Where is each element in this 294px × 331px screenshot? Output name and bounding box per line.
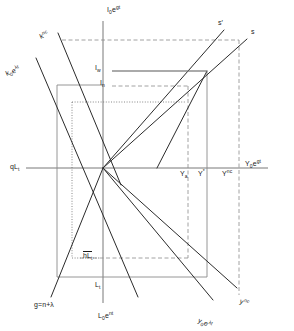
axis-label-vertical-bottom-text: L0ent (98, 312, 113, 319)
marker-label-Y-nc-text: Ync (222, 170, 232, 177)
curve-s-prime (103, 30, 224, 168)
marker-label-Y-star-text: Y* (198, 170, 205, 177)
curve-label-s-text: s (251, 28, 255, 35)
marker-label-Ya: Ya (180, 170, 188, 177)
axis-group (26, 21, 268, 303)
marker-label-hLt: hLt (83, 252, 93, 259)
marker-label-Ya-text: Ya (180, 170, 188, 177)
marker-label-Iw: Iw (95, 64, 101, 71)
axis-label-horizontal-left-text: qLt (10, 163, 20, 170)
axis-label-horizontal-left: qLt (10, 163, 20, 170)
curve-label-g-line: g=n+λ (34, 301, 54, 308)
curve-label-g-line-text: g=n+λ (34, 301, 54, 308)
dotted-guides (72, 102, 185, 258)
marker-label-Y-star: Y* (198, 170, 205, 177)
curve-s (103, 39, 247, 168)
curve-y-nc (103, 168, 237, 288)
curve-label-s-prime: s′ (218, 19, 223, 26)
figure-canvas: I0egt L0ent qLt Y0egt knc k0eλt s′ s g=n… (0, 0, 294, 331)
marker-label-Iw-text: Iw (95, 64, 101, 71)
curve-k0-elambda (36, 58, 138, 297)
axis-label-vertical-top-text: I0egt (107, 6, 120, 13)
marker-label-Y-nc: Ync (222, 170, 232, 177)
axis-label-vertical-bottom: L0ent (98, 312, 113, 319)
curve-g-line (51, 168, 103, 297)
curve-s-segment (157, 71, 207, 168)
curve-label-s-prime-text: s′ (218, 19, 223, 26)
curve-label-s: s (251, 28, 255, 35)
curve-k-nc (58, 33, 121, 185)
marker-label-In-text: In (100, 79, 105, 86)
marker-label-Lt-text: Lt (95, 281, 101, 288)
curve-y0-elambda (103, 168, 213, 300)
marker-label-hLt-text: hLt (83, 252, 93, 259)
marker-label-Lt: Lt (95, 281, 101, 288)
axis-label-vertical-top: I0egt (107, 6, 120, 13)
axis-label-horizontal-right-text: Y0egt (245, 160, 261, 167)
marker-label-In: In (100, 79, 105, 86)
axis-label-horizontal-right: Y0egt (245, 160, 261, 167)
